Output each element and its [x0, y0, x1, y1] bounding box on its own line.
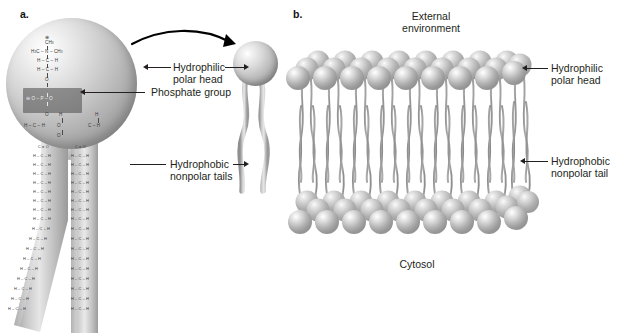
leader-line-head-b	[527, 68, 548, 69]
arrowhead-tail-b	[520, 158, 525, 164]
label-line-2: polar head	[551, 74, 603, 86]
label-hydrophobic-nonpolar-tails: Hydrophobic nonpolar tails	[170, 158, 232, 183]
leader-line-tails-a-left	[130, 164, 166, 165]
label-line-1: Hydrophobic	[551, 155, 610, 167]
simplified-phospholipid-head	[233, 41, 278, 86]
label-line-1: Hydrophilic	[173, 61, 225, 73]
label-cytosol: Cytosol	[372, 258, 462, 270]
label-line-2: environment	[378, 22, 484, 34]
leader-line-tail-b	[525, 161, 548, 162]
label-line-2: nonpolar tail	[551, 167, 610, 179]
transition-curved-arrow	[126, 16, 242, 58]
label-hydrophilic-polar-head-b: Hydrophilic polar head	[551, 62, 603, 87]
arrowhead-tails-a-right	[244, 161, 249, 167]
arrowhead-head-a-left	[143, 64, 148, 70]
arrowhead-phosphate	[80, 89, 85, 95]
hydrophilic-head-sphere	[6, 18, 137, 149]
panel-a-letter: a.	[20, 8, 29, 20]
label-hydrophobic-nonpolar-tail-b: Hydrophobic nonpolar tail	[551, 155, 610, 180]
arrowhead-head-a-right	[244, 64, 249, 70]
label-line-1: Hydrophilic	[551, 62, 603, 74]
label-line-1: External	[378, 10, 484, 22]
label-line-2: nonpolar tails	[170, 170, 232, 182]
label-phosphate-group: Phosphate group	[151, 86, 231, 98]
label-external-environment: External environment	[378, 10, 484, 35]
leader-line-head-a-left	[148, 67, 171, 68]
arrowhead-head-b	[522, 65, 527, 71]
panel-b-letter: b.	[293, 8, 302, 20]
leader-line-phosphate	[85, 92, 145, 93]
bilayer-graphic	[288, 42, 538, 250]
label-line-2: polar head	[173, 73, 225, 85]
label-line-1: Hydrophobic	[170, 158, 232, 170]
label-hydrophilic-polar-head-a: Hydrophilic polar head	[173, 61, 225, 86]
figure-canvas: a.	[0, 0, 623, 333]
